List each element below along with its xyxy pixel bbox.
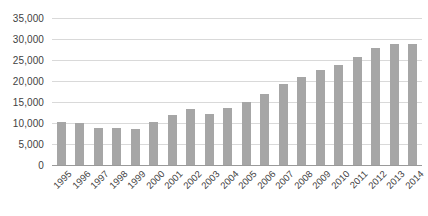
bar [334,65,343,165]
x-tick-label: 2005 [236,168,259,191]
x-tick-label: 2004 [218,168,241,191]
bar [131,129,140,165]
x-tick-label: 2006 [255,168,278,191]
bar [316,70,325,165]
x-tick-label: 2003 [199,168,222,191]
bars-layer [52,18,422,165]
x-tick-label: 2010 [329,168,352,191]
x-tick-label: 2008 [292,168,315,191]
x-tick-label: 2009 [310,168,333,191]
y-axis: 05,00010,00015,00020,00025,00030,00035,0… [0,18,48,165]
bar-chart: 05,00010,00015,00020,00025,00030,00035,0… [0,0,428,216]
bar [371,48,380,165]
y-tick-label: 35,000 [13,13,44,24]
bar [279,84,288,165]
x-tick-label: 1996 [70,168,93,191]
bar [223,108,232,165]
bar [353,57,362,165]
bar [205,114,214,165]
x-tick-label: 2000 [144,168,167,191]
x-tick-label: 1997 [88,168,111,191]
x-tick-label: 1998 [107,168,130,191]
y-tick-label: 15,000 [13,97,44,108]
x-tick-label: 2011 [348,168,371,191]
x-tick-label: 1999 [125,168,148,191]
x-tick-label: 2014 [403,168,426,191]
bar [149,122,158,165]
y-tick-label: 5,000 [18,139,44,150]
y-tick-label: 25,000 [13,55,44,66]
x-tick-label: 1995 [51,168,74,191]
bar [297,77,306,165]
bar [408,44,417,165]
x-tick-label: 2013 [384,168,407,191]
x-tick-label: 2007 [273,168,296,191]
bar [168,115,177,165]
bar [390,44,399,165]
x-tick-label: 2001 [162,168,185,191]
x-tick-label: 2012 [366,168,389,191]
y-tick-label: 20,000 [13,76,44,87]
y-tick-label: 30,000 [13,34,44,45]
bar [94,128,103,165]
bar [242,102,251,165]
bar [57,122,66,165]
bar [75,123,84,165]
y-tick-label: 10,000 [13,118,44,129]
y-tick-label: 0 [38,160,44,171]
bar [260,94,269,165]
x-tick-label: 2002 [181,168,204,191]
bar [112,128,121,165]
x-axis: 1995199619971998199920002001200220032004… [52,166,422,216]
bar [186,109,195,165]
